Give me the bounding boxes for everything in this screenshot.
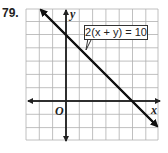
origin-label: O bbox=[55, 104, 64, 119]
equation-label: 2(x + y) = 10 bbox=[84, 25, 148, 40]
y-axis-label: y bbox=[70, 7, 75, 22]
coordinate-plane bbox=[0, 0, 168, 153]
x-axis-label: x bbox=[151, 103, 157, 118]
